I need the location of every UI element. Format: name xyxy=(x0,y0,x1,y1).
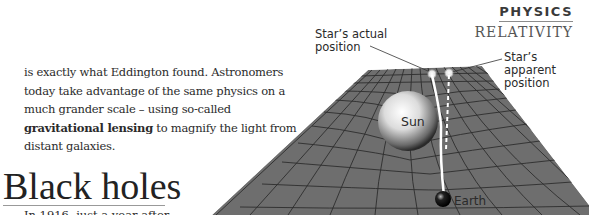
bold-term: gravitational lensing xyxy=(24,121,153,135)
star-apparent-icon xyxy=(444,68,454,78)
article-paragraph: is exactly what Eddington found. Astrono… xyxy=(24,63,299,156)
section-heading: Black holes xyxy=(3,168,165,206)
paragraph-text: is exactly what Eddington found. Astrono… xyxy=(24,65,285,116)
label-sun: Sun xyxy=(401,115,425,128)
next-paragraph-start: In 1916, just a year after xyxy=(24,208,169,215)
section-subtitle: RELATIVITY xyxy=(475,24,574,40)
magazine-page: PHYSICS RELATIVITY is exactly what Eddin… xyxy=(0,0,589,215)
section-header: PHYSICS RELATIVITY xyxy=(475,2,574,40)
star-actual-icon xyxy=(427,69,437,79)
label-earth: Earth xyxy=(454,195,486,208)
label-star-actual: Star’s actual position xyxy=(315,28,405,54)
earth-icon xyxy=(435,191,451,207)
label-star-apparent: Star’s apparent position xyxy=(504,51,589,90)
section-kicker: PHYSICS xyxy=(499,4,573,22)
